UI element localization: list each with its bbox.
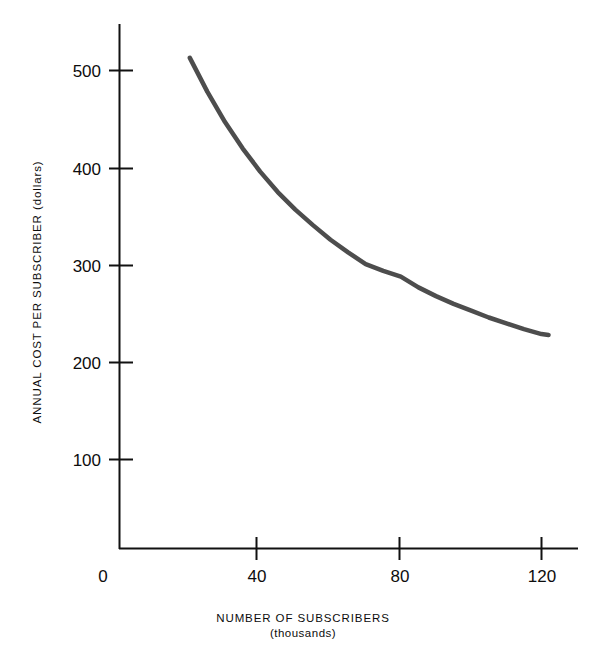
chart-page: 500 400 300 200 100 0 40 80 120 NUMBER O…	[0, 0, 606, 668]
line-chart: 500 400 300 200 100 0 40 80 120 NUMBER O…	[0, 0, 606, 668]
x-axis-title: NUMBER OF SUBSCRIBERS	[216, 612, 390, 624]
x-tick-label-120: 120	[528, 567, 556, 586]
x-tick-label-0: 0	[98, 567, 107, 586]
x-axis-subtitle: (thousands)	[270, 627, 336, 639]
y-axis-title: ANNUAL COST PER SUBSCRIBER (dollars)	[31, 160, 43, 423]
x-tick-label-40: 40	[248, 567, 267, 586]
y-tick-labels: 500 400 300 200 100	[73, 62, 101, 470]
x-tick-label-80: 80	[391, 567, 410, 586]
y-axis-ticks	[109, 71, 133, 460]
y-tick-label-400: 400	[73, 160, 101, 179]
y-tick-label-200: 200	[73, 354, 101, 373]
data-series-line	[190, 58, 549, 335]
x-tick-labels: 0 40 80 120	[98, 567, 556, 586]
y-tick-label-500: 500	[73, 62, 101, 81]
y-tick-label-300: 300	[73, 257, 101, 276]
y-tick-label-100: 100	[73, 451, 101, 470]
